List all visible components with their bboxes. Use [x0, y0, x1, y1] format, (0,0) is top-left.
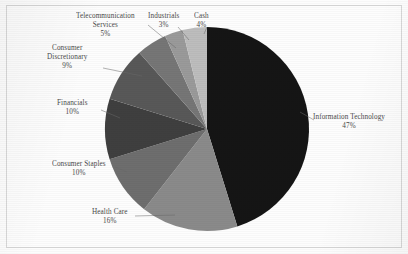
label-health-care-pct: 16%	[92, 217, 128, 226]
label-cash-pct: 4%	[194, 21, 209, 30]
label-consumer-discretionary-name2: Discretionary	[47, 53, 87, 62]
label-financials-pct: 10%	[57, 108, 88, 117]
label-industrials-pct: 3%	[148, 21, 179, 30]
label-telecommunication-services-name: Telecommunication	[76, 12, 135, 20]
label-information-technology: Information Technology 47%	[313, 113, 385, 131]
label-cash: Cash 4%	[194, 12, 209, 30]
label-information-technology-pct: 47%	[313, 122, 385, 131]
label-consumer-discretionary: Consumer Discretionary 9%	[47, 44, 87, 72]
label-consumer-staples: Consumer Staples 10%	[52, 160, 106, 178]
label-consumer-discretionary-pct: 9%	[47, 62, 87, 71]
label-cash-name: Cash	[194, 12, 209, 20]
label-health-care: Health Care 16%	[92, 208, 128, 226]
label-financials-name: Financials	[57, 99, 88, 107]
label-industrials-name: Industrials	[148, 12, 179, 20]
label-consumer-staples-name: Consumer Staples	[52, 160, 106, 168]
label-telecommunication-services: Telecommunication Services 5%	[76, 12, 135, 40]
pie-slices	[105, 27, 309, 231]
label-telecommunication-services-name2: Services	[76, 21, 135, 30]
label-consumer-staples-pct: 10%	[52, 169, 106, 178]
label-financials: Financials 10%	[57, 99, 88, 117]
label-health-care-name: Health Care	[92, 208, 128, 216]
label-information-technology-name: Information Technology	[313, 113, 385, 121]
label-telecommunication-services-pct: 5%	[76, 30, 135, 39]
chart-page: Information Technology 47% Health Care 1…	[0, 0, 408, 254]
label-industrials: Industrials 3%	[148, 12, 179, 30]
label-consumer-discretionary-name: Consumer	[52, 44, 82, 52]
